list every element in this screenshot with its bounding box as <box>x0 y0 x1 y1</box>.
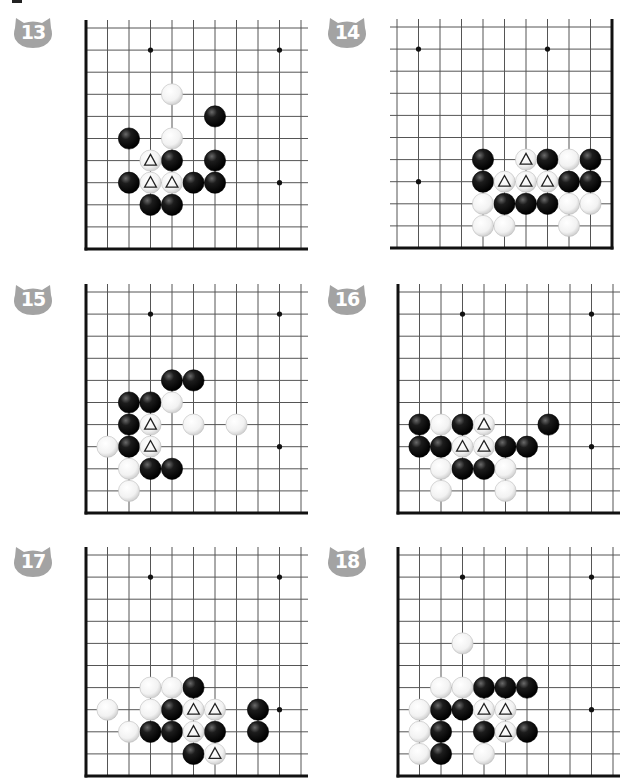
black-stone <box>516 677 537 698</box>
black-stone <box>430 743 451 764</box>
star-point-icon <box>589 707 594 712</box>
white-stone <box>409 721 430 742</box>
stones <box>409 633 538 765</box>
black-stone <box>473 721 494 742</box>
white-stone <box>473 743 494 764</box>
white-stone <box>430 677 451 698</box>
white-stone-marked <box>495 721 516 742</box>
white-stone <box>409 743 430 764</box>
star-point-icon <box>460 575 465 580</box>
black-stone <box>473 677 494 698</box>
black-stone <box>452 699 473 720</box>
white-stone <box>452 677 473 698</box>
black-stone <box>516 721 537 742</box>
white-stone <box>409 699 430 720</box>
black-stone <box>430 699 451 720</box>
board-grid <box>397 547 621 778</box>
white-stone-marked <box>495 699 516 720</box>
black-stone <box>430 721 451 742</box>
black-stone <box>495 677 516 698</box>
star-point-icon <box>589 575 594 580</box>
white-stone <box>452 633 473 654</box>
go-board <box>0 0 627 783</box>
white-stone-marked <box>473 699 494 720</box>
